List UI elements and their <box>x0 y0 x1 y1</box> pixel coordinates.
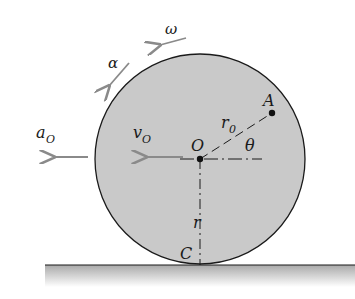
contact-point-label-C: C <box>180 244 192 263</box>
ground <box>45 265 355 287</box>
omega-label: ω <box>165 20 177 38</box>
alpha-label: α <box>108 54 118 72</box>
v-O-subscript: O <box>142 133 151 146</box>
r0-subscript: 0 <box>229 123 236 136</box>
a-O-subscript: O <box>46 133 55 146</box>
center-label-O: O <box>191 136 204 155</box>
a-O-label: a <box>36 123 46 142</box>
center-point-O <box>197 156 203 162</box>
wheel-diagram: ω α a O v O O A r 0 θ r C <box>0 0 355 299</box>
v-O-label: v <box>133 123 142 142</box>
radius-label: r <box>193 213 202 232</box>
omega-arrow <box>160 38 186 45</box>
point-A <box>269 110 275 116</box>
point-A-label: A <box>261 91 275 110</box>
theta-label: θ <box>245 136 255 155</box>
